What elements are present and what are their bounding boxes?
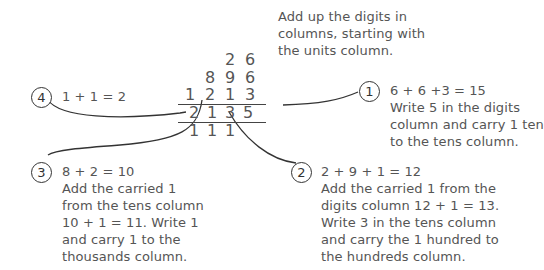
step-2-line: the hundreds column. — [321, 248, 466, 265]
addend-1-digit: 6 — [242, 50, 258, 69]
step-2-line: digits column 12 + 1 = 13. — [321, 197, 499, 214]
intro-line-2: columns, starting with — [278, 25, 425, 42]
step-3-badge: 3 — [31, 162, 52, 183]
step-2-badge: 2 — [291, 162, 312, 183]
addend-3-digit: 3 — [242, 85, 258, 104]
step-1-badge: 1 — [359, 81, 380, 102]
step-3-line: Add the carried 1 — [62, 180, 176, 197]
result-digit-hundreds: 1 — [204, 103, 220, 122]
step-3-line: 10 + 1 = 11. Write 1 — [62, 214, 199, 231]
step-3-line: thousands column. — [62, 248, 187, 265]
carry-digit: 1 — [222, 121, 238, 140]
step-3-line: 8 + 2 = 10 — [62, 163, 134, 180]
step-1-line: to the tens column. — [390, 133, 519, 150]
result-digit-tens: 3 — [222, 103, 238, 122]
result-digit-units: 5 — [240, 103, 256, 122]
step-1-line: column and carry 1 ten — [390, 116, 544, 133]
addend-3-digit: 1 — [182, 85, 198, 104]
step-4-line: 1 + 1 = 2 — [62, 88, 126, 105]
intro-line-3: the units column. — [278, 42, 393, 59]
addend-1-digit: 2 — [222, 50, 238, 69]
step-2-line: Add the carried 1 from the — [321, 180, 496, 197]
step-1-line: Write 5 in the digits — [390, 99, 520, 116]
step-1-line: 6 + 6 +3 = 15 — [390, 82, 486, 99]
result-digit-thousands: 2 — [186, 103, 202, 122]
step-3-line: from the tens column — [62, 197, 204, 214]
step-3-line: and carry 1 to the — [62, 231, 181, 248]
step-2-line: 2 + 9 + 1 = 12 — [321, 163, 421, 180]
addend-3-digit: 2 — [202, 85, 218, 104]
step-2-line: and carry the 1 hundred to — [321, 231, 499, 248]
carry-digit: 1 — [204, 121, 220, 140]
step-4-badge: 4 — [31, 87, 52, 108]
carry-digit: 1 — [186, 121, 202, 140]
step-2-line: Write 3 in the tens column — [321, 214, 496, 231]
intro-line-1: Add up the digits in — [278, 8, 407, 25]
addend-3-digit: 1 — [222, 85, 238, 104]
